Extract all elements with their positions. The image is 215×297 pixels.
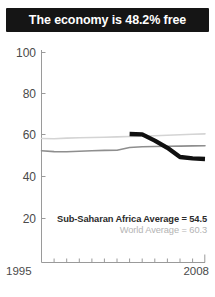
- chart-svg: [0, 36, 215, 276]
- legend-item-world-average: World Average = 60.3: [40, 225, 207, 236]
- chart-title-bar: The economy is 48.2% free: [6, 8, 209, 32]
- economy-freedom-chart-card: The economy is 48.2% free 100 80 60 40 2…: [0, 0, 215, 297]
- y-axis-ticks: [42, 53, 46, 219]
- legend-item-sub-saharan-average: Sub-Saharan Africa Average = 54.5: [40, 214, 207, 225]
- page-title: The economy is 48.2% free: [29, 14, 186, 27]
- series-world-average-line: [42, 134, 206, 139]
- x-tick-label-end: 2008: [183, 266, 209, 278]
- series-sub-saharan-average-line: [42, 146, 206, 152]
- plot-area: [0, 36, 215, 276]
- chart-legend: Sub-Saharan Africa Average = 54.5 World …: [40, 214, 207, 236]
- x-tick-label-start: 1995: [6, 266, 32, 278]
- x-axis-ticks: [54, 255, 205, 263]
